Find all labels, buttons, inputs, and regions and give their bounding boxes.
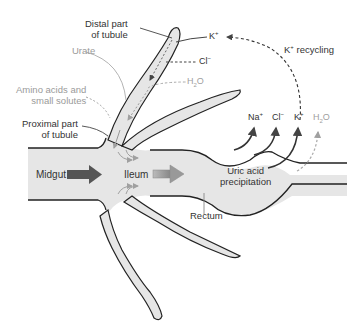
rectum-text: Rectum <box>190 210 223 221</box>
rectal-h2o: H2O <box>313 112 330 122</box>
ion-base: Cl <box>199 56 208 66</box>
rectal-na-ion: Na+ <box>248 112 263 122</box>
urate-text: Urate <box>72 45 95 56</box>
amino-acids-label: Amino acids and small solutes <box>16 84 86 106</box>
distal-tubule-label: Distal part of tubule <box>85 18 128 40</box>
ion-charge: + <box>300 111 304 117</box>
amino-line1: Amino acids and <box>16 84 86 95</box>
ion-charge: + <box>290 44 294 50</box>
ion-base2: O <box>197 76 204 86</box>
rectal-cl-ion: Cl− <box>272 112 284 122</box>
ion-charge: − <box>208 55 212 61</box>
uric-line2: precipitation <box>220 176 271 187</box>
ion-base2: O <box>323 112 330 122</box>
proximal-line1: Proximal part <box>22 118 78 129</box>
proximal-line2: of tubule <box>22 129 78 140</box>
tubule-k-ion: K+ <box>209 31 219 41</box>
distal-label-line2: of tubule <box>85 29 128 40</box>
amino-line2: small solutes <box>16 95 86 106</box>
ion-charge: − <box>281 111 285 117</box>
ion-charge: + <box>260 111 264 117</box>
distal-label-line1: Distal part <box>85 18 128 29</box>
tubule-h2o: H2O <box>187 76 204 86</box>
uric-line1: Uric acid <box>220 165 271 176</box>
k-recycling-label: K+ recycling <box>284 44 334 55</box>
uric-acid-label: Uric acid precipitation <box>220 165 271 187</box>
recycling-text: recycling <box>297 44 335 55</box>
proximal-tubule-label: Proximal part of tubule <box>22 118 78 140</box>
rectal-k-ion: K+ <box>294 112 304 122</box>
ion-charge: + <box>215 30 219 36</box>
ileum-text: Ileum <box>124 169 148 180</box>
ileum-label: Ileum <box>124 169 148 180</box>
tubule-cl-ion: Cl− <box>199 56 211 66</box>
ion-base: Na <box>248 112 260 122</box>
urate-label: Urate <box>72 45 95 56</box>
midgut-text: Midgut <box>36 169 66 180</box>
rectum-label: Rectum <box>190 210 223 221</box>
midgut-label: Midgut <box>36 169 66 180</box>
ion-base: Cl <box>272 112 281 122</box>
